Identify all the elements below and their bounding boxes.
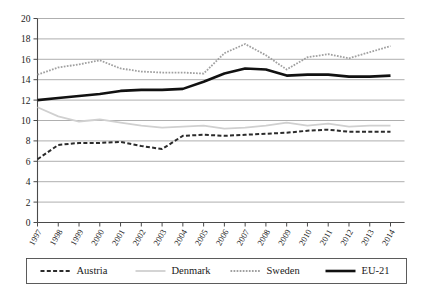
x-tick-label: 2008 [255,228,272,248]
x-tick-label: 2009 [276,228,293,248]
x-tick-label: 2010 [297,228,314,248]
chart-legend: AustriaDenmarkSwedenEU-21 [27,259,407,284]
x-tick-label: 2004 [172,227,190,247]
series-line-denmark [38,107,391,128]
legend-label-austria: Austria [77,265,108,276]
x-tick-label: 1997 [27,228,44,248]
x-axis-ticks [38,223,391,227]
legend-label-denmark: Denmark [172,265,212,276]
series-line-austria [38,130,391,160]
y-axis-ticks [34,19,38,223]
x-tick-label: 2000 [89,228,106,248]
x-tick-label: 2002 [130,228,147,248]
y-tick-label: 12 [21,96,31,106]
legend-label-sweden: Sweden [267,265,301,276]
x-tick-label: 2014 [380,227,398,247]
y-tick-label: 8 [26,136,31,146]
y-tick-label: 2 [26,198,31,208]
data-series [38,44,391,159]
x-axis-labels: 1997199819992000200120022003200420052006… [27,227,398,247]
y-tick-label: 6 [26,157,31,167]
x-tick-label: 1999 [68,228,85,248]
y-tick-label: 4 [26,177,31,187]
x-tick-label: 2012 [338,228,355,248]
x-tick-label: 2001 [110,228,127,248]
x-tick-label: 2006 [213,228,230,248]
y-tick-label: 18 [21,34,31,44]
line-chart: 02468101214161820 1997199819992000200120… [0,0,425,287]
y-tick-label: 20 [21,14,31,24]
y-tick-label: 14 [21,75,31,85]
y-tick-label: 16 [21,55,31,65]
x-tick-label: 2013 [359,228,376,248]
y-axis-labels: 02468101214161820 [21,14,31,228]
y-tick-label: 0 [26,218,31,228]
x-tick-label: 1998 [47,228,64,248]
x-tick-label: 2007 [234,228,251,248]
x-tick-label: 2011 [317,228,334,247]
legend-label-eu-21: EU-21 [362,265,390,276]
chart-figure: 02468101214161820 1997199819992000200120… [0,0,425,287]
y-tick-label: 10 [21,116,31,126]
x-tick-label: 2003 [151,228,168,248]
x-tick-label: 2005 [193,228,210,248]
series-line-eu-21 [38,68,391,100]
